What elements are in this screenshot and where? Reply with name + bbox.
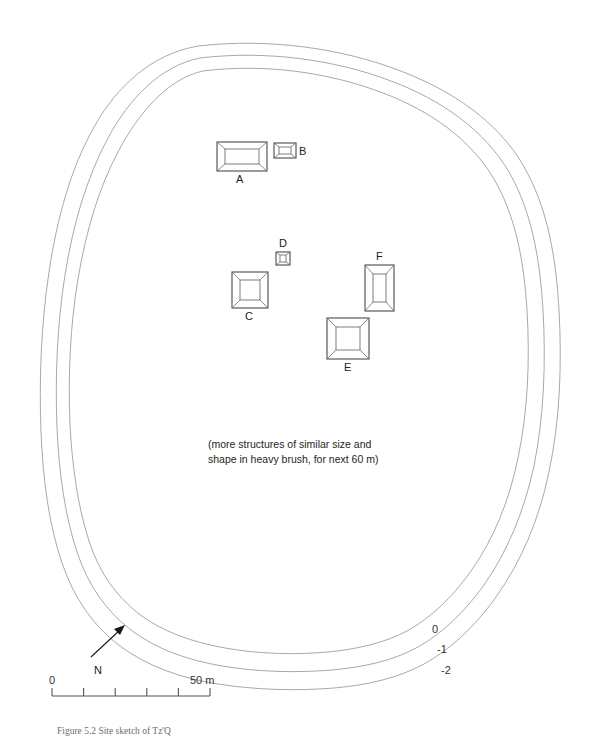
structure-c-inner <box>240 280 260 300</box>
contour-label-minus-2: -2 <box>441 664 451 676</box>
structure-a-label: A <box>236 173 244 185</box>
north-arrow-label: N <box>94 664 102 676</box>
structure-e[interactable]: E <box>327 318 369 373</box>
structure-b-inner <box>279 147 291 154</box>
structure-e-inner <box>336 327 360 350</box>
contour-line-minus-2 <box>40 43 560 689</box>
structure-a-inner <box>225 149 259 164</box>
figure-caption: Figure 5.2 Site sketch of Tz'Q <box>57 726 171 738</box>
brush-note-line-2: shape in heavy brush, for next 60 m) <box>208 452 378 467</box>
brush-note-line-1: (more structures of similar size and <box>208 437 371 452</box>
structure-a[interactable]: A <box>217 142 267 185</box>
structure-b[interactable]: B <box>274 143 306 158</box>
structure-f-inner <box>373 274 386 302</box>
structure-c-label: C <box>245 310 253 322</box>
structure-b-label: B <box>299 145 306 157</box>
contour-label-0: 0 <box>432 623 438 635</box>
contour-label-minus-1: -1 <box>437 643 447 655</box>
structure-e-label: E <box>344 361 351 373</box>
scale-bar-end-label: 50 m <box>190 674 214 686</box>
structure-d-label: D <box>279 237 287 249</box>
structure-f-label: F <box>376 250 383 262</box>
structure-f[interactable]: F <box>365 250 394 311</box>
structure-d[interactable]: D <box>276 237 290 265</box>
north-arrow-icon: N <box>91 625 125 676</box>
site-map-canvas: 0 -1 -2 A B C D <box>0 0 599 738</box>
scale-bar-start-label: 0 <box>49 674 55 686</box>
site-map-figure: 0 -1 -2 A B C D <box>0 0 599 738</box>
structure-d-inner <box>280 255 286 262</box>
structure-c[interactable]: C <box>232 272 268 322</box>
scale-bar: 0 50 m <box>49 674 214 696</box>
contour-group <box>40 43 560 689</box>
